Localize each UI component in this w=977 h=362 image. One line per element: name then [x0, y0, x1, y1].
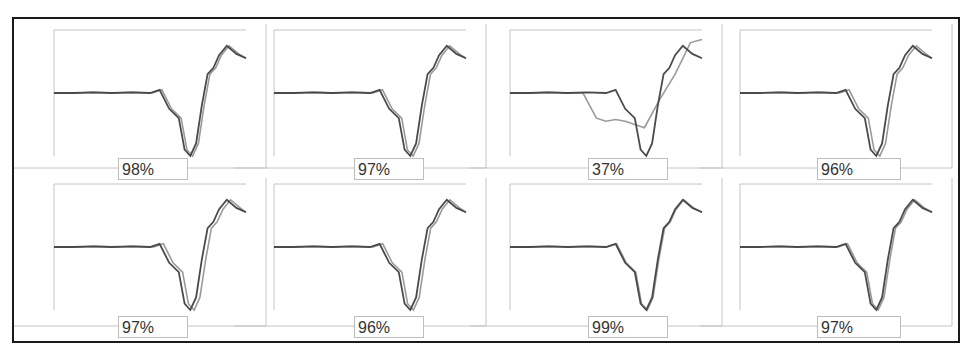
- test-trace: [511, 200, 702, 310]
- reference-trace: [54, 46, 246, 156]
- test-trace: [744, 46, 933, 156]
- similarity-label: 98%: [118, 158, 188, 180]
- similarity-label: 97%: [118, 316, 188, 338]
- test-trace: [58, 200, 246, 310]
- test-trace: [277, 46, 466, 156]
- similarity-label: 97%: [817, 316, 901, 338]
- reference-trace: [274, 200, 466, 310]
- reference-trace: [740, 46, 932, 156]
- test-trace: [277, 200, 466, 310]
- reference-trace: [54, 200, 246, 310]
- similarity-label: 96%: [817, 158, 901, 180]
- similarity-label: 96%: [354, 316, 424, 338]
- similarity-label: 37%: [588, 158, 668, 180]
- test-trace: [510, 39, 702, 127]
- reference-trace: [274, 46, 466, 156]
- reference-trace: [510, 46, 702, 156]
- test-trace: [56, 46, 246, 156]
- test-trace: [742, 200, 932, 310]
- similarity-label: 99%: [588, 316, 668, 338]
- waveform-grid: [0, 0, 977, 362]
- similarity-label: 97%: [354, 158, 424, 180]
